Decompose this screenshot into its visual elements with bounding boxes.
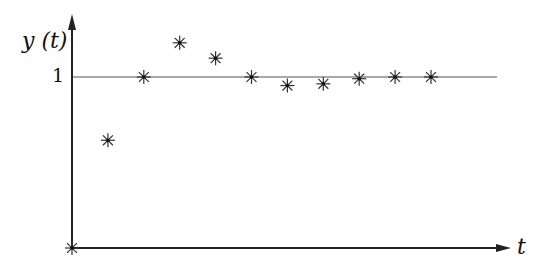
data-point-asterisk-icon [101,133,115,147]
data-point-asterisk-icon [245,70,259,84]
plot-svg [0,0,549,270]
data-point-asterisk-icon [173,36,187,50]
data-point-asterisk-icon [352,72,366,86]
y-axis-label: y (t) [22,28,67,53]
x-axis-arrow-icon [496,244,511,252]
data-point-asterisk-icon [316,77,330,91]
y-axis-arrow-icon [68,14,76,30]
data-point-asterisk-icon [388,70,402,84]
data-point-asterisk-icon [65,241,79,255]
x-axis-label: t [517,234,526,259]
data-point-asterisk-icon [424,70,438,84]
data-point-asterisk-icon [209,51,223,65]
data-point-asterisk-icon [280,79,294,93]
y-tick-one: 1 [52,64,64,86]
data-point-asterisk-icon [137,70,151,84]
